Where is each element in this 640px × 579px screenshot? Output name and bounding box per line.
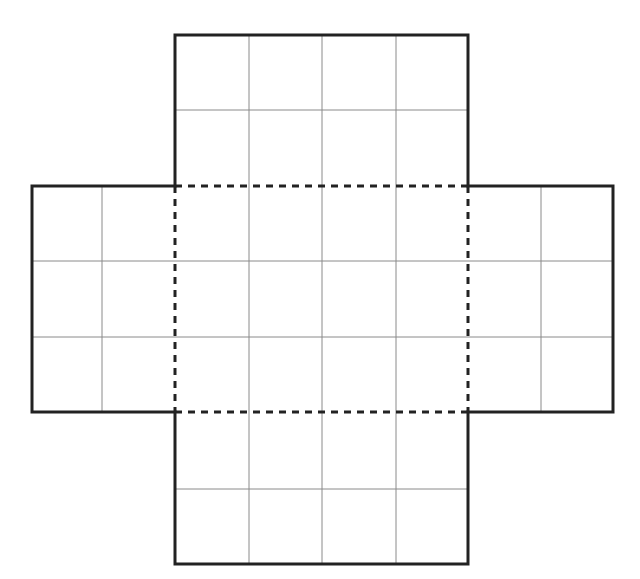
grid-lines — [32, 35, 613, 564]
box-net-diagram — [0, 0, 640, 579]
